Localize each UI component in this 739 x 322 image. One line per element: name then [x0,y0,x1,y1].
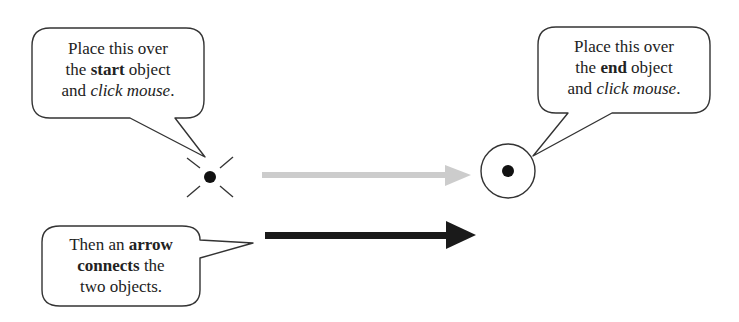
bubble-text-segment: Then an [69,235,128,254]
bubble-text-segment: start [91,60,125,79]
bubble-line: connects the [42,255,200,276]
bubble-text-segment: . [676,79,680,98]
bubble-text-segment: the [66,60,91,79]
bubble-text-segment: and [62,81,91,100]
bubble-text-segment: connects [77,256,139,275]
bubble-text-segment: the [140,256,165,275]
bubble-text-segment: two objects. [80,277,162,296]
bubble-text-segment: end [600,58,626,77]
bubble-text-segment: and [568,79,597,98]
bubble-line: two objects. [42,276,200,297]
bubble-text-segment: click mouse [90,81,170,100]
crosshair-dot-icon [187,157,233,197]
gray-arrow-icon [262,165,471,186]
black-arrow-icon [265,221,476,249]
circle-dot-icon [481,144,535,198]
bubble-line: the end object [538,57,710,78]
bubble-line: and click mouse. [538,78,710,99]
bubble-text-segment: object [125,60,171,79]
bubble-line: and click mouse. [32,80,204,101]
start-bubble-text: Place this overthe start objectand click… [32,38,204,101]
bubble-line: the start object [32,59,204,80]
bubble-text-segment: arrow [129,235,173,254]
bubble-line: Place this over [32,38,204,59]
bubble-text-segment: Place this over [68,39,168,58]
result-bubble-text: Then an arrowconnects thetwo objects. [42,234,200,297]
bubble-text-segment: click mouse [596,79,676,98]
bubble-text-segment: the [575,58,600,77]
end-bubble-text: Place this overthe end objectand click m… [538,36,710,99]
bubble-line: Then an arrow [42,234,200,255]
bubble-line: Place this over [538,36,710,57]
bubble-text-segment: object [627,58,673,77]
bubble-text-segment: . [170,81,174,100]
bubble-text-segment: Place this over [574,37,674,56]
